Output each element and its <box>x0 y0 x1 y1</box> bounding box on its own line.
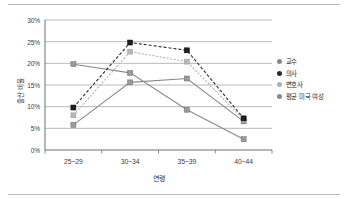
gridlines <box>45 20 272 128</box>
chart-legend: 교수 의사 변호사 평균 미국 여성 <box>277 56 324 102</box>
x-tick-label-3: 40~44 <box>224 158 264 165</box>
legend-label-average-us-woman: 평균 미국 여성 <box>286 92 325 101</box>
legend-item-doctor: 의사 <box>277 68 324 80</box>
point-avg-40-44 <box>241 137 246 142</box>
legend-item-lawyer: 변호사 <box>277 79 324 91</box>
legend-marker-icon-average-us-woman <box>277 94 282 99</box>
point-lawyer-35-39 <box>184 59 189 64</box>
x-tick-label-0: 25~29 <box>53 158 93 165</box>
point-avg-35-39 <box>184 107 189 112</box>
point-prof-30-34 <box>128 80 133 85</box>
legend-marker-icon-doctor <box>277 71 282 76</box>
point-doctor-30-34 <box>128 40 133 45</box>
series-line-lawyer <box>71 49 246 122</box>
point-avg-30-34 <box>128 70 133 75</box>
series-line-average-us-woman <box>71 62 246 142</box>
x-tick-label-2: 35~39 <box>167 158 207 165</box>
point-doctor-40-44 <box>241 116 246 121</box>
legend-label-lawyer: 변호사 <box>286 80 304 89</box>
legend-item-average-us-woman: 평균 미국 여성 <box>277 91 324 103</box>
chart-figure: 30% 25% 20% 15% 10% 5% 0% 출산 비율 <box>0 0 348 199</box>
point-doctor-35-39 <box>184 48 189 53</box>
legend-label-doctor: 의사 <box>286 69 298 78</box>
legend-item-professor: 교수 <box>277 56 324 68</box>
point-lawyer-30-34 <box>128 49 133 54</box>
point-doctor-25-29 <box>71 105 76 110</box>
legend-marker-icon-lawyer <box>277 82 282 87</box>
point-lawyer-25-29 <box>71 113 76 118</box>
point-prof-35-39 <box>184 76 189 81</box>
point-avg-25-29 <box>71 62 76 67</box>
point-prof-25-29 <box>71 122 76 127</box>
series-line-professor <box>71 76 246 127</box>
legend-marker-icon-professor <box>277 59 282 64</box>
legend-label-professor: 교수 <box>286 57 298 66</box>
x-tick-label-1: 30~34 <box>110 158 150 165</box>
x-tick-marks <box>45 150 272 154</box>
x-axis-title: 연령 <box>129 173 189 183</box>
